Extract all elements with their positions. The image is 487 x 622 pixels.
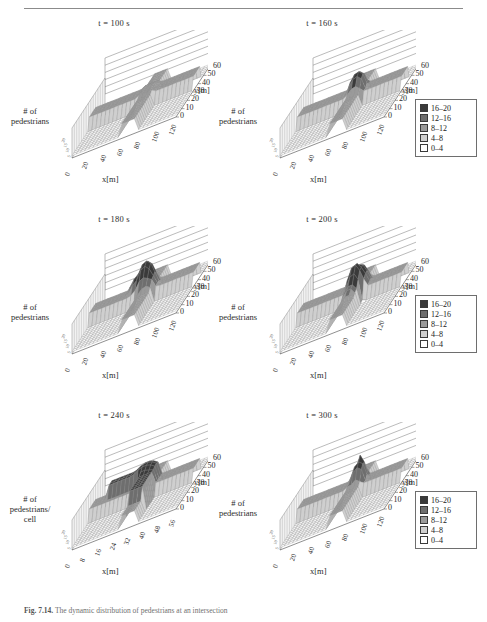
z-axis-label-line: # of (196, 498, 280, 508)
legend-item: 0–4 (420, 143, 472, 153)
legend-swatch-12-16 (420, 114, 428, 122)
plot-panel-t300: t = 300 s 6050403020100y[m]0204060801001… (222, 408, 422, 604)
legend-item: 12–16 (420, 505, 472, 515)
legend-row-1: 16–20 12–16 8–12 4–8 0–4 (415, 99, 477, 157)
y-axis-tick: 10 (186, 495, 194, 504)
legend-label: 4–8 (431, 134, 443, 143)
legend-label: 16–20 (431, 104, 451, 113)
figure-page: t = 100 s 6050403020100y[m]0204060801001… (0, 0, 487, 622)
legend-label: 0–4 (431, 144, 443, 153)
legend-swatch-8-12 (420, 320, 428, 328)
legend-item: 4–8 (420, 525, 472, 535)
z-axis-label: # ofpedestrians (196, 106, 280, 126)
plot-title: t = 300 s (222, 410, 422, 420)
z-axis-label-line: # of (196, 106, 280, 116)
plot-panel-t200: t = 200 s 6050403020100y[m]0204060801001… (222, 212, 422, 408)
legend-label: 4–8 (431, 330, 443, 339)
caption-text: The dynamic distribution of pedestrians … (55, 606, 228, 615)
legend-label: 4–8 (431, 526, 443, 535)
legend-label: 0–4 (431, 536, 443, 545)
z-axis-label: # ofpedestrians/cell (0, 494, 72, 524)
y-axis-tick: 0 (180, 307, 184, 316)
plot-panel-t160: t = 160 s 6050403020100y[m]0204060801001… (222, 16, 422, 212)
plot-title: t = 240 s (14, 410, 214, 420)
legend-swatch-12-16 (420, 506, 428, 514)
plot-title: t = 180 s (14, 214, 214, 224)
legend-item: 0–4 (420, 535, 472, 545)
plot-panel-t180: t = 180 s 6050403020100y[m]0204060801001… (14, 212, 214, 408)
z-axis-label-line: pedestrians (196, 312, 280, 322)
top-horizontal-rule (24, 8, 463, 9)
legend-swatch-4-8 (420, 526, 428, 534)
legend-item: 12–16 (420, 309, 472, 319)
legend-swatch-4-8 (420, 134, 428, 142)
y-axis-tick: 0 (180, 111, 184, 120)
legend-swatch-0-4 (420, 536, 428, 544)
z-axis-label-line: # of (0, 106, 72, 116)
x-axis-label: x[m] (102, 370, 119, 380)
plot-title: t = 100 s (14, 18, 214, 28)
legend-label: 8–12 (431, 516, 447, 525)
legend-label: 16–20 (431, 496, 451, 505)
legend-item: 8–12 (420, 515, 472, 525)
x-axis-label: x[m] (310, 370, 327, 380)
figure-row-2: t = 180 s 6050403020100y[m]0204060801001… (0, 212, 487, 408)
legend-item: 16–20 (420, 103, 472, 113)
y-axis-tick: 0 (388, 307, 392, 316)
z-axis-label-line: cell (0, 514, 72, 524)
x-axis-label: x[m] (102, 566, 119, 576)
legend-swatch-8-12 (420, 516, 428, 524)
y-axis-tick: 10 (394, 299, 402, 308)
plot-title: t = 160 s (222, 18, 422, 28)
x-axis-label: x[m] (310, 566, 327, 576)
legend-item: 4–8 (420, 133, 472, 143)
y-axis-label: y[m] (194, 282, 210, 291)
y-axis-tick: 0 (388, 111, 392, 120)
legend-label: 12–16 (431, 310, 451, 319)
figure-row-1: t = 100 s 6050403020100y[m]0204060801001… (0, 16, 487, 212)
x-axis-label: x[m] (102, 174, 119, 184)
x-axis-label: x[m] (310, 174, 327, 184)
legend-row-3: 16–20 12–16 8–12 4–8 0–4 (415, 491, 477, 549)
legend-swatch-16-20 (420, 300, 428, 308)
legend-swatch-16-20 (420, 496, 428, 504)
z-axis-label-line: # of (0, 494, 72, 504)
z-axis-label-line: # of (196, 302, 280, 312)
figure-caption: Fig. 7.14. The dynamic distribution of p… (24, 606, 464, 616)
z-axis-label-line: pedestrians (196, 508, 280, 518)
z-axis-label-line: pedestrians/ (0, 504, 72, 514)
legend-label: 0–4 (431, 340, 443, 349)
y-axis-label: y[m] (402, 86, 418, 95)
plot-title: t = 200 s (222, 214, 422, 224)
y-axis-tick: 0 (180, 503, 184, 512)
z-axis-label-line: # of (0, 302, 72, 312)
y-axis-tick: 10 (394, 495, 402, 504)
z-axis-label: # ofpedestrians (196, 302, 280, 322)
z-axis-label-line: pedestrians (0, 312, 72, 322)
legend-item: 12–16 (420, 113, 472, 123)
y-axis-tick: 0 (388, 503, 392, 512)
z-axis-label: # ofpedestrians (0, 302, 72, 322)
caption-label: Fig. 7.14. (24, 606, 53, 615)
legend-swatch-12-16 (420, 310, 428, 318)
legend-item: 0–4 (420, 339, 472, 349)
legend-row-2: 16–20 12–16 8–12 4–8 0–4 (415, 295, 477, 353)
y-axis-tick: 10 (394, 103, 402, 112)
y-axis-label: y[m] (402, 282, 418, 291)
legend-swatch-8-12 (420, 124, 428, 132)
legend-item: 16–20 (420, 299, 472, 309)
legend-label: 8–12 (431, 320, 447, 329)
figure-row-3: t = 240 s 6050403020100y[m]0816243240485… (0, 408, 487, 604)
legend-item: 4–8 (420, 329, 472, 339)
legend-label: 8–12 (431, 124, 447, 133)
z-axis-label: # ofpedestrians (0, 106, 72, 126)
y-axis-label: y[m] (194, 478, 210, 487)
plot-panel-t240: t = 240 s 6050403020100y[m]0816243240485… (14, 408, 214, 604)
legend-swatch-0-4 (420, 340, 428, 348)
legend-item: 8–12 (420, 123, 472, 133)
y-axis-tick: 10 (186, 103, 194, 112)
legend-label: 12–16 (431, 506, 451, 515)
z-axis-label: # ofpedestrians (196, 498, 280, 518)
legend-swatch-4-8 (420, 330, 428, 338)
legend-label: 16–20 (431, 300, 451, 309)
